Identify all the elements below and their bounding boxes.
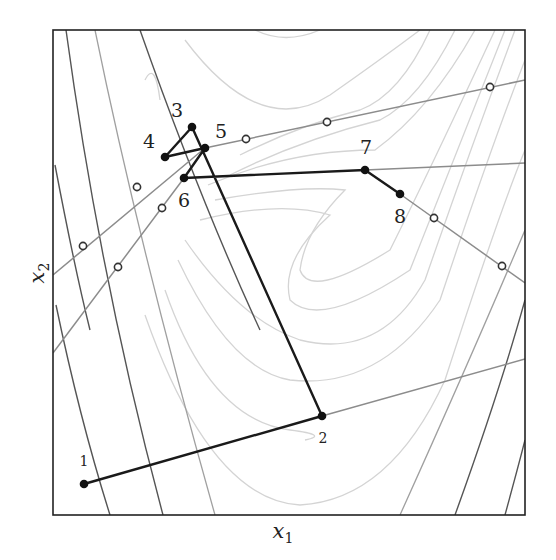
iterate-point: [161, 153, 170, 162]
iterate-label: 4: [143, 130, 155, 152]
contour-lines: [55, 30, 525, 515]
search-line: [365, 163, 525, 170]
iterate-label: 1: [80, 453, 89, 469]
iterate-point: [318, 412, 327, 421]
optimization-diagram: 12345678 x1 x2: [0, 0, 556, 560]
search-line: [322, 359, 525, 416]
search-line: [400, 194, 525, 283]
iterate-label: 8: [394, 205, 406, 227]
iterate-label: 2: [319, 430, 328, 446]
sample-point: [486, 83, 493, 90]
sample-point: [242, 135, 249, 142]
sample-point: [158, 204, 165, 211]
iterate-point: [201, 144, 210, 153]
sample-point: [323, 118, 330, 125]
sample-point: [498, 262, 505, 269]
sample-point: [114, 263, 121, 270]
iterate-point: [180, 174, 189, 183]
iterate-label: 6: [178, 189, 190, 211]
sample-point: [79, 242, 86, 249]
x-axis-label: x1: [273, 519, 294, 546]
iterate-point: [361, 166, 370, 175]
iterate-label: 7: [360, 136, 372, 158]
sample-point: [133, 183, 140, 190]
sample-point: [430, 214, 437, 221]
iterate-point: [80, 480, 89, 489]
iterate-label: 3: [171, 99, 183, 121]
search-lines: [53, 80, 525, 416]
search-line: [53, 148, 205, 275]
y-axis-label: x2: [25, 263, 52, 284]
iterate-point: [188, 123, 197, 132]
iterate-label: 5: [215, 120, 227, 142]
iterate-point: [396, 190, 405, 199]
plot-frame: [53, 30, 525, 515]
iterate-labels: 12345678: [80, 99, 407, 469]
